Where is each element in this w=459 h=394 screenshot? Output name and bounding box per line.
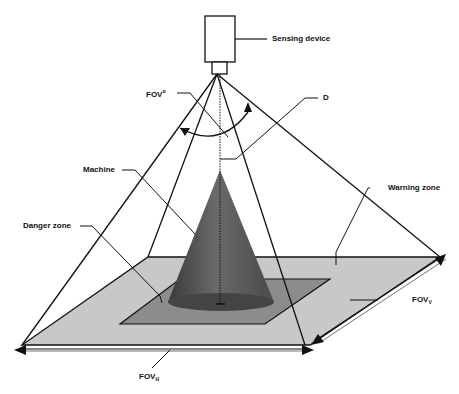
sensing-device bbox=[205, 16, 235, 74]
label-fov-h-text: FOV bbox=[139, 372, 155, 381]
label-fov-h-sub: H bbox=[155, 376, 159, 382]
arrowhead-icon bbox=[14, 345, 26, 355]
fov-h-leader bbox=[152, 350, 170, 368]
label-fov-alpha-text: FOV bbox=[146, 90, 162, 99]
warning-zone-leader bbox=[336, 188, 370, 265]
machine-leader bbox=[122, 170, 195, 234]
label-d: D bbox=[323, 93, 329, 102]
label-danger-zone: Danger zone bbox=[23, 221, 71, 230]
label-sensing-device: Sensing device bbox=[272, 34, 330, 43]
safety-sensor-diagram bbox=[0, 0, 459, 394]
label-fov-v-sub: V bbox=[428, 299, 431, 305]
label-fov-v-text: FOV bbox=[412, 295, 428, 304]
label-fov-alpha-sup: α bbox=[162, 88, 165, 94]
arrowhead-icon bbox=[244, 102, 252, 112]
machine-cone bbox=[168, 170, 274, 311]
label-fov-alpha: FOVα bbox=[146, 88, 166, 99]
fov-h-dimension bbox=[14, 345, 314, 355]
arrowhead-icon bbox=[302, 345, 314, 355]
label-fov-v: FOVV bbox=[412, 295, 432, 305]
label-fov-h: FOVH bbox=[139, 372, 159, 382]
label-machine: Machine bbox=[83, 165, 115, 174]
label-warning-zone: Warning zone bbox=[388, 183, 440, 192]
fov-angle-arc bbox=[180, 112, 248, 136]
